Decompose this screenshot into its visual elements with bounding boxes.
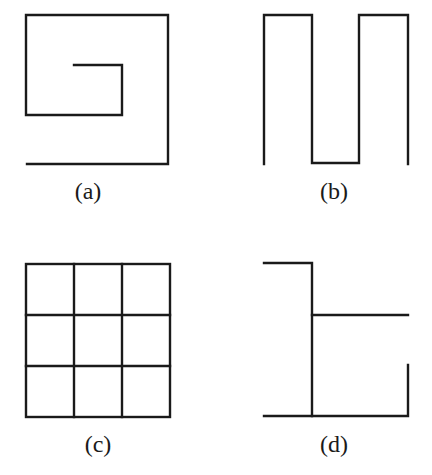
branch-path-top xyxy=(264,263,312,416)
meander-path xyxy=(264,15,408,164)
branch-path-bottom xyxy=(264,365,408,416)
panel-b: (b) xyxy=(264,15,408,204)
panel-c: (c) xyxy=(26,264,170,457)
grid-outer-border xyxy=(26,264,170,417)
panel-a: (a) xyxy=(26,15,168,204)
figure-canvas: (a) (b) (c) (d) xyxy=(0,0,432,475)
panel-a-label: (a) xyxy=(75,178,102,204)
spiral-path xyxy=(26,15,168,164)
panel-b-label: (b) xyxy=(320,178,348,204)
panel-d: (d) xyxy=(264,263,408,457)
panel-d-label: (d) xyxy=(320,431,348,457)
panel-c-label: (c) xyxy=(85,431,112,457)
